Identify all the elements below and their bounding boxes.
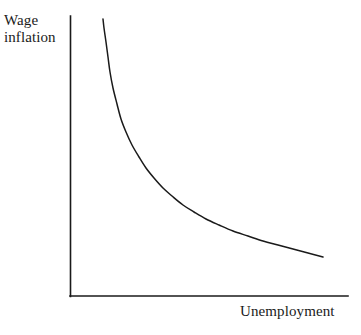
phillips-curve-figure: Wage inflation Unemployment bbox=[0, 0, 361, 335]
x-axis-label: Unemployment bbox=[240, 303, 335, 320]
axes-group bbox=[70, 16, 348, 297]
plot-area bbox=[0, 0, 361, 335]
data-series-group bbox=[103, 19, 323, 257]
phillips-curve-line bbox=[103, 19, 323, 257]
y-axis-label-line-1: Wage bbox=[4, 12, 56, 29]
y-axis-label-line-2: inflation bbox=[4, 29, 56, 46]
y-axis-label: Wage inflation bbox=[4, 12, 56, 46]
